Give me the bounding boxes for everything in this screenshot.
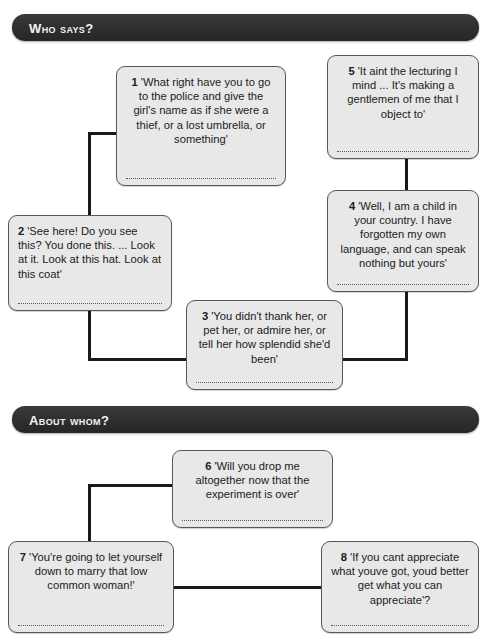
quote-box-4-answer-line[interactable] xyxy=(337,284,469,285)
quote-box-2-number: 2 xyxy=(18,225,24,237)
quote-box-5-quote: 'It aint the lecturing I mind ... It's m… xyxy=(347,65,458,120)
quote-box-5-answer-line[interactable] xyxy=(337,151,469,152)
quote-box-8-number: 8 xyxy=(341,551,347,563)
section-header-about-whom: About whom? xyxy=(12,406,479,433)
quote-box-1-number: 1 xyxy=(132,76,138,88)
quote-box-8[interactable]: 8'If you cant appreciate what youve got,… xyxy=(321,541,479,633)
connector-box5-to-box4 xyxy=(405,159,408,191)
connector-trunk-to-box1 xyxy=(88,132,118,135)
quote-box-3-quote: 'You didn't thank her, or pet her, or ad… xyxy=(199,310,331,365)
connector-box4-to-box3 xyxy=(341,358,408,361)
quote-box-2-quote: 'See here! Do you see this? You done thi… xyxy=(18,225,161,280)
quote-box-6-answer-line[interactable] xyxy=(182,520,323,521)
quote-box-3[interactable]: 3'You didn't thank her, or pet her, or a… xyxy=(186,300,343,390)
quote-box-2-text: 2'See here! Do you see this? You done th… xyxy=(18,224,162,281)
quote-box-2-answer-line[interactable] xyxy=(18,303,162,304)
quote-box-4-text: 4'Well, I am a child in your country. I … xyxy=(337,199,469,270)
connector-box6-to-trunk xyxy=(88,484,174,487)
connector-trunk-to-box7 xyxy=(88,484,91,543)
quote-box-3-number: 3 xyxy=(202,310,208,322)
quote-box-8-text: 8'If you cant appreciate what youve got,… xyxy=(331,550,469,607)
quote-box-1-text: 1'What right have you to go to the polic… xyxy=(126,75,276,146)
quote-box-5-text: 5'It aint the lecturing I mind ... It's … xyxy=(337,64,469,121)
connector-trunk-to-box3 xyxy=(88,358,188,361)
connector-box7-to-box8 xyxy=(172,586,323,589)
quote-box-8-quote: 'If you cant appreciate what youve got, … xyxy=(331,551,468,606)
quote-box-6-number: 6 xyxy=(205,460,211,472)
section-title-who-says: Who says? xyxy=(29,20,94,35)
connector-box4-down xyxy=(405,292,408,361)
quote-box-3-answer-line[interactable] xyxy=(196,382,333,383)
quote-box-5[interactable]: 5'It aint the lecturing I mind ... It's … xyxy=(327,55,479,159)
quote-box-6-text: 6'Will you drop me altogether now that t… xyxy=(182,459,323,502)
quote-box-6[interactable]: 6'Will you drop me altogether now that t… xyxy=(172,450,333,528)
quote-box-7[interactable]: 7'You're going to let yourself down to m… xyxy=(8,541,174,633)
quote-box-7-quote: 'You're going to let yourself down to ma… xyxy=(29,551,162,591)
quote-box-6-quote: 'Will you drop me altogether now that th… xyxy=(196,460,310,500)
quote-box-4[interactable]: 4'Well, I am a child in your country. I … xyxy=(327,190,479,292)
quote-box-1-quote: 'What right have you to go to the police… xyxy=(133,76,270,145)
quote-box-7-answer-line[interactable] xyxy=(18,625,164,626)
quote-box-4-number: 4 xyxy=(349,200,355,212)
quote-box-7-text: 7'You're going to let yourself down to m… xyxy=(18,550,164,593)
quote-box-7-number: 7 xyxy=(20,551,26,563)
quote-box-4-quote: 'Well, I am a child in your country. I h… xyxy=(340,200,465,269)
quote-box-1-answer-line[interactable] xyxy=(126,178,276,179)
quote-box-3-text: 3'You didn't thank her, or pet her, or a… xyxy=(196,309,333,366)
quote-box-5-number: 5 xyxy=(348,65,354,77)
section-header-who-says: Who says? xyxy=(12,14,479,41)
quote-box-2[interactable]: 2'See here! Do you see this? You done th… xyxy=(8,215,172,311)
section-title-about-whom: About whom? xyxy=(29,412,109,427)
worksheet-page: Who says? 1'What right have you to go to… xyxy=(0,0,491,641)
quote-box-1[interactable]: 1'What right have you to go to the polic… xyxy=(116,66,286,186)
quote-box-8-answer-line[interactable] xyxy=(331,625,469,626)
